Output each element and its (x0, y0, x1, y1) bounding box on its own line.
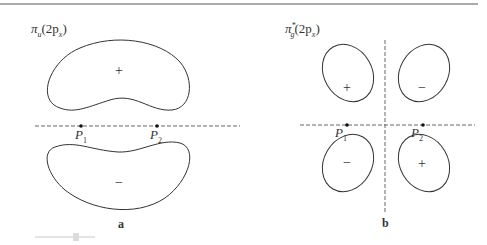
title-close: ) (315, 21, 319, 36)
point-name: P (335, 125, 343, 140)
sign-b-lower-left: − (343, 155, 351, 171)
orbital-diagram (0, 0, 487, 245)
point-name: P (150, 127, 158, 142)
title-orbital: (2p (42, 21, 59, 36)
point-name: P (75, 127, 83, 142)
point-sub: 2 (158, 136, 162, 145)
cropped-caption-fragment (73, 233, 79, 241)
label-p2-b: P2 (411, 125, 423, 143)
title-close: ) (62, 21, 66, 36)
point-sub: 2 (419, 134, 423, 143)
cropped-caption-fragment (35, 236, 95, 238)
panel-a-title: πu(2px) (31, 21, 67, 39)
sign-b-upper-left: + (343, 80, 351, 96)
point-sub: 1 (343, 134, 347, 143)
panel-b-title: π*g(2px) (285, 21, 320, 39)
title-orbital: (2p (295, 21, 312, 36)
sign-b-lower-right: + (418, 156, 426, 172)
sign-b-upper-right: − (418, 80, 426, 96)
lobe-b-upper-right (388, 35, 460, 111)
point-sub: 1 (83, 136, 87, 145)
panel-b-label: b (382, 216, 389, 231)
label-p2-a: P2 (150, 127, 162, 145)
label-p1-a: P1 (75, 127, 87, 145)
sign-a-lower: − (115, 175, 123, 191)
panel-a-label: a (118, 217, 124, 232)
label-p1-b: P1 (335, 125, 347, 143)
sign-a-upper: + (115, 63, 123, 79)
lobe-b-upper-left (312, 35, 384, 111)
point-name: P (411, 125, 419, 140)
